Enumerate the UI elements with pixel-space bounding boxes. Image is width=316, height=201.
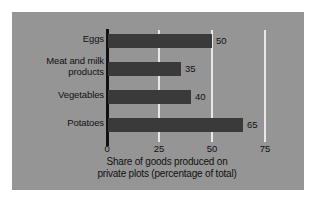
value-label-eggs: 50 [216, 36, 226, 46]
xtick-label-25: 25 [147, 143, 171, 154]
bar-meat-and-milk-products [108, 62, 181, 76]
bar-eggs [108, 34, 212, 48]
xtick-label-0: 0 [95, 143, 119, 154]
chart-panel: Eggs Meat and milk products Vegetables P… [12, 12, 304, 190]
category-label-vegetables-line1: Vegetables [12, 90, 104, 101]
bar-potatoes [108, 118, 243, 132]
category-label-eggs-line1: Eggs [12, 34, 104, 45]
chart-caption-line1: Share of goods produced on [52, 156, 282, 168]
category-label-meat-and-milk-products: Meat and milk products [12, 56, 104, 77]
category-label-meat-line1: Meat and milk [12, 56, 104, 67]
category-label-potatoes: Potatoes [12, 118, 104, 129]
bar-vegetables [108, 90, 191, 104]
chart-caption: Share of goods produced on private plots… [52, 156, 282, 180]
xtick-label-50: 50 [200, 143, 224, 154]
category-label-vegetables: Vegetables [12, 90, 104, 101]
gridline-75 [264, 30, 266, 142]
category-label-eggs: Eggs [12, 34, 104, 45]
category-label-meat-line2: products [12, 67, 104, 78]
chart-caption-line2: private plots (percentage of total) [52, 168, 282, 180]
value-label-meat-and-milk-products: 35 [185, 64, 195, 74]
value-label-potatoes: 65 [247, 120, 257, 130]
plot-area: Eggs Meat and milk products Vegetables P… [12, 12, 304, 190]
xtick-label-75: 75 [253, 143, 277, 154]
category-label-potatoes-line1: Potatoes [12, 118, 104, 129]
chart-page: Eggs Meat and milk products Vegetables P… [0, 0, 316, 201]
value-label-vegetables: 40 [195, 92, 205, 102]
